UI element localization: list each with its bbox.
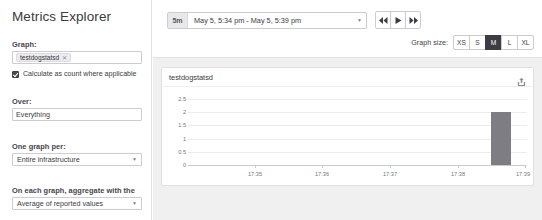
x-tick-mark — [458, 165, 459, 168]
gridline — [188, 139, 527, 140]
aggregate-select[interactable]: Average of reported values ▼ — [12, 197, 142, 210]
time-range-badge: 5m — [168, 13, 188, 28]
graph-metric-input[interactable]: testdogstatsd ✕ — [12, 51, 142, 64]
metrics-explorer-page: Metrics Explorer Graph: testdogstatsd ✕ … — [0, 0, 542, 220]
graph-field-label: Graph: — [12, 40, 142, 49]
gridline — [188, 99, 527, 100]
play-button[interactable] — [390, 11, 406, 29]
metric-tag[interactable]: testdogstatsd ✕ — [16, 53, 71, 63]
aggregate-group: On each graph, aggregate with the Averag… — [12, 186, 142, 210]
graph-size-label: Graph size: — [411, 38, 448, 47]
fast-forward-button[interactable] — [405, 11, 421, 29]
one-graph-per-group: One graph per: Entire infrastructure ▼ — [12, 142, 142, 166]
y-tick-label: 0 — [162, 162, 186, 168]
graph-panel: testdogstatsd 2.5 2 1.5 — [153, 57, 542, 220]
chevron-down-icon: ▼ — [132, 201, 137, 206]
playback-controls — [375, 11, 421, 29]
graph-size-m[interactable]: M — [485, 35, 502, 50]
graph-card-header: testdogstatsd — [162, 68, 533, 87]
x-tick-mark — [390, 165, 391, 168]
x-axis-line — [188, 165, 527, 166]
graph-card-title: testdogstatsd — [169, 73, 213, 82]
over-field-label: Over: — [12, 97, 142, 106]
gridline — [188, 112, 527, 113]
aggregate-value: Average of reported values — [17, 199, 103, 208]
over-input[interactable]: Everything — [12, 108, 142, 121]
chart-plot-area: 2.5 2 1.5 1 0.5 0 17:35 — [162, 87, 535, 186]
one-graph-per-label: One graph per: — [12, 142, 142, 151]
graph-size-button-group: XS S M L XL — [453, 35, 534, 50]
over-value: Everything — [16, 110, 50, 119]
rewind-button[interactable] — [375, 11, 391, 29]
sidebar: Metrics Explorer Graph: testdogstatsd ✕ … — [0, 0, 152, 220]
aggregate-label: On each graph, aggregate with the — [12, 186, 142, 195]
calculate-as-count-checkbox[interactable] — [12, 71, 19, 78]
x-tick-mark — [322, 165, 323, 168]
one-graph-per-select[interactable]: Entire infrastructure ▼ — [12, 153, 142, 166]
graph-size-l[interactable]: L — [501, 35, 518, 50]
graph-size-control: Graph size: XS S M L XL — [411, 35, 534, 50]
x-tick-mark — [255, 165, 256, 168]
graph-size-s[interactable]: S — [469, 35, 486, 50]
chevron-down-icon: ▼ — [132, 157, 137, 162]
x-tick-mark — [525, 165, 526, 168]
over-field-group: Over: Everything — [12, 97, 142, 121]
calculate-as-count-label: Calculate as count where applicable — [23, 70, 137, 78]
x-tick-label: 17:38 — [451, 171, 465, 177]
main-content: 5m May 5, 5:34 pm - May 5, 5:39 pm ▼ — [153, 0, 542, 220]
graph-size-xs[interactable]: XS — [453, 35, 470, 50]
time-range-value: May 5, 5:34 pm - May 5, 5:39 pm — [188, 16, 357, 25]
graph-field-group: Graph: testdogstatsd ✕ Calculate as coun… — [12, 40, 142, 78]
x-tick-label: 17:37 — [383, 171, 397, 177]
time-range-picker[interactable]: 5m May 5, 5:34 pm - May 5, 5:39 pm ▼ — [167, 12, 367, 29]
close-x-icon[interactable]: ✕ — [62, 54, 67, 61]
one-graph-per-value: Entire infrastructure — [17, 155, 80, 164]
bar-datapoint — [491, 112, 511, 165]
play-icon — [395, 17, 402, 24]
x-tick-label: 17:35 — [248, 171, 262, 177]
page-title: Metrics Explorer — [12, 9, 111, 24]
y-tick-label: 0.5 — [162, 149, 186, 155]
x-tick-label: 17:36 — [315, 171, 329, 177]
graph-card: testdogstatsd 2.5 2 1.5 — [161, 67, 534, 186]
y-tick-label: 1.5 — [162, 122, 186, 128]
x-tick-label: 17:39 — [516, 171, 530, 177]
rewind-icon — [379, 17, 388, 24]
chevron-down-icon[interactable]: ▼ — [357, 18, 362, 23]
y-tick-label: 2 — [162, 109, 186, 115]
calculate-as-count-row[interactable]: Calculate as count where applicable — [12, 70, 142, 78]
metric-tag-label: testdogstatsd — [20, 54, 59, 61]
y-tick-label: 1 — [162, 136, 186, 142]
gridline — [188, 125, 527, 126]
gridline — [188, 152, 527, 153]
y-tick-label: 2.5 — [162, 96, 186, 102]
graph-size-xl[interactable]: XL — [517, 35, 534, 50]
fast-forward-icon — [409, 17, 418, 24]
